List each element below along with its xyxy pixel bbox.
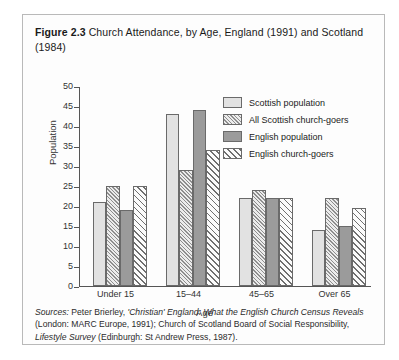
legend-label: All Scottish church-goers xyxy=(249,115,349,125)
source-italic-1: 'Christian' England: What the English Ch… xyxy=(128,307,364,317)
y-axis-tick-label: 50 xyxy=(53,81,73,91)
x-axis-category-label: Under 15 xyxy=(79,289,152,299)
source-text-1: Peter Brierley, xyxy=(69,307,128,317)
legend-item-engchurch: English church-goers xyxy=(223,146,349,161)
legend-swatch-engpop xyxy=(223,131,242,142)
y-axis-tick xyxy=(74,207,79,208)
bar-scotchurch-0 xyxy=(106,186,120,286)
bar-engpop-3 xyxy=(339,226,353,286)
y-axis-tick xyxy=(74,247,79,248)
source-lead: Sources: xyxy=(35,307,69,317)
source-text-3: (Edinburgh: St Andrew Press, 1987). xyxy=(96,332,238,342)
y-axis-tick xyxy=(74,187,79,188)
source-italic-2: Lifestyle Survey xyxy=(35,332,96,342)
y-axis-tick-label: 25 xyxy=(53,181,73,191)
bar-scotpop-1 xyxy=(166,114,180,286)
bar-engpop-0 xyxy=(120,210,134,286)
legend-item-engpop: English population xyxy=(223,129,349,144)
source-text-2: (London: MARC Europe, 1991); Church of S… xyxy=(35,319,349,329)
legend-label: English population xyxy=(249,132,323,142)
x-axis-category-label: Over 65 xyxy=(298,289,371,299)
legend-item-scotchurch: All Scottish church-goers xyxy=(223,112,349,127)
y-axis-tick xyxy=(74,87,79,88)
bar-scotchurch-1 xyxy=(179,170,193,286)
source-citation: Sources: Peter Brierley, 'Christian' Eng… xyxy=(35,306,375,343)
legend-swatch-scotpop xyxy=(223,97,242,108)
bar-engchurch-1 xyxy=(206,150,220,286)
y-axis-tick-label: 35 xyxy=(53,141,73,151)
legend-label: Scottish population xyxy=(249,98,325,108)
legend-swatch-scotchurch xyxy=(223,114,242,125)
bar-scotpop-2 xyxy=(239,198,253,286)
legend-item-scotpop: Scottish population xyxy=(223,95,349,110)
x-axis-category-label: 45–65 xyxy=(225,289,298,299)
figure-panel: Figure 2.3 Church Attendance, by Age, En… xyxy=(22,14,385,345)
y-axis-tick-label: 10 xyxy=(53,241,73,251)
x-axis-line xyxy=(79,286,371,287)
y-axis-tick-label: 0 xyxy=(53,281,73,291)
y-axis-line xyxy=(79,87,80,287)
legend-label: English church-goers xyxy=(249,149,334,159)
y-axis-tick xyxy=(74,127,79,128)
x-axis-category-label: 15–44 xyxy=(152,289,225,299)
y-axis-tick-label: 45 xyxy=(53,101,73,111)
y-axis-tick-label: 15 xyxy=(53,221,73,231)
page-title: Figure 2.3 Church Attendance, by Age, En… xyxy=(35,25,373,55)
bar-engpop-1 xyxy=(193,110,207,286)
bar-engchurch-0 xyxy=(133,186,147,286)
bar-engpop-2 xyxy=(266,198,280,286)
bar-scotpop-3 xyxy=(312,230,326,286)
legend-swatch-engchurch xyxy=(223,148,242,159)
y-axis-tick-label: 40 xyxy=(53,121,73,131)
y-axis-tick xyxy=(74,267,79,268)
y-axis-tick-label: 30 xyxy=(53,161,73,171)
chart-legend: Scottish populationAll Scottish church-g… xyxy=(223,95,349,163)
bar-scotchurch-3 xyxy=(325,198,339,286)
y-axis-tick xyxy=(74,287,79,288)
y-axis-tick-label: 5 xyxy=(53,261,73,271)
bar-engchurch-3 xyxy=(352,208,366,286)
y-axis-tick-label: 20 xyxy=(53,201,73,211)
y-axis-tick xyxy=(74,107,79,108)
y-axis-tick xyxy=(74,167,79,168)
y-axis-tick xyxy=(74,147,79,148)
bar-scotpop-0 xyxy=(93,202,107,286)
bar-engchurch-2 xyxy=(279,198,293,286)
y-axis-tick xyxy=(74,227,79,228)
figure-number: Figure 2.3 xyxy=(35,26,86,38)
bar-scotchurch-2 xyxy=(252,190,266,286)
